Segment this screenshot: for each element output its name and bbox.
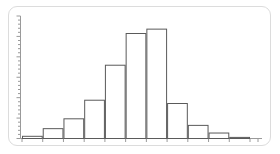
y-axis-tick-group <box>17 16 21 139</box>
histogram-bar <box>23 136 43 138</box>
histogram-bar <box>147 29 167 138</box>
histogram-bar <box>126 34 146 139</box>
histogram-bar <box>188 125 208 138</box>
histogram-bar <box>64 119 84 139</box>
histogram-bar <box>168 104 188 139</box>
x-axis-tick-group <box>22 139 258 143</box>
histogram-bar <box>85 100 105 138</box>
screenshot-root <box>0 0 280 154</box>
histogram-bar <box>105 65 125 138</box>
histogram-svg <box>0 0 280 154</box>
plot-area <box>0 0 280 154</box>
histogram-bar <box>209 133 229 138</box>
histogram-bar <box>43 129 63 139</box>
histogram-bars <box>23 29 250 138</box>
histogram-bar <box>230 137 250 138</box>
